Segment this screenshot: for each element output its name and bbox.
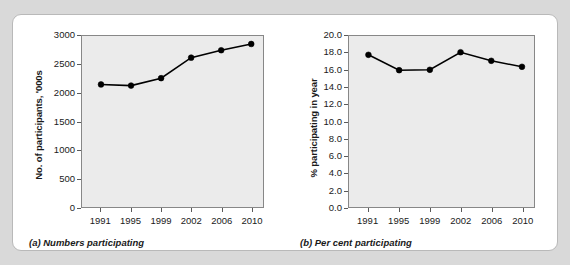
y-tick-label: 2500	[54, 59, 75, 69]
y-tick-mark	[77, 208, 81, 209]
x-tick-label: 1991	[351, 216, 385, 226]
y-tick-label: 3000	[54, 30, 75, 40]
data-point	[366, 52, 372, 58]
y-tick-label: 8.0	[329, 134, 342, 144]
y-tick-label: 16.0	[324, 65, 343, 75]
x-tick-mark	[100, 208, 101, 212]
y-axis-label-a: No. of participants, '000s	[31, 35, 47, 215]
x-tick-label: 2006	[475, 216, 509, 226]
y-tick-label: 6.0	[329, 151, 342, 161]
series-line-a	[82, 36, 263, 207]
data-point	[427, 67, 433, 73]
y-tick-label: 12.0	[324, 99, 343, 109]
x-tick-label: 1991	[83, 216, 117, 226]
y-tick-label: 1500	[54, 117, 75, 127]
data-point	[188, 55, 194, 61]
x-tick-label: 1999	[413, 216, 447, 226]
figure-root: No. of participants, '000s 0500100015002…	[0, 0, 570, 265]
x-tick-mark	[368, 208, 369, 212]
x-tick-mark	[131, 208, 132, 212]
x-tick-mark	[523, 208, 524, 212]
figure-panel: No. of participants, '000s 0500100015002…	[12, 14, 558, 251]
y-tick-label: 14.0	[324, 82, 343, 92]
data-point	[128, 83, 134, 89]
data-point	[218, 47, 224, 53]
data-point	[158, 75, 164, 81]
y-tick-label: 18.0	[324, 47, 343, 57]
y-tick-label: 20.0	[324, 30, 343, 40]
x-tick-label: 2006	[205, 216, 239, 226]
x-tick-label: 1995	[382, 216, 416, 226]
x-tick-label: 1995	[114, 216, 148, 226]
y-axis-label-b: % participating in year	[306, 43, 322, 213]
x-tick-mark	[461, 208, 462, 212]
y-tick-label: 0.0	[329, 203, 342, 213]
x-tick-label: 2010	[235, 216, 269, 226]
data-point	[519, 64, 525, 70]
x-tick-mark	[492, 208, 493, 212]
x-tick-label: 2010	[506, 216, 540, 226]
data-point	[488, 58, 494, 64]
y-tick-label: 10.0	[324, 117, 343, 127]
data-point	[248, 41, 254, 47]
caption-b: (b) Per cent participating	[300, 237, 412, 248]
data-point	[458, 49, 464, 55]
y-tick-label: 500	[59, 174, 75, 184]
chart-panel-a: No. of participants, '000s 0500100015002…	[13, 15, 286, 252]
series-line-b	[349, 36, 534, 207]
x-tick-label: 2002	[444, 216, 478, 226]
data-point	[396, 67, 402, 73]
x-tick-mark	[191, 208, 192, 212]
x-tick-mark	[399, 208, 400, 212]
y-tick-mark	[344, 208, 348, 209]
plot-area-b	[348, 35, 535, 208]
x-tick-label: 1999	[144, 216, 178, 226]
y-tick-label: 2000	[54, 88, 75, 98]
y-tick-label: 4.0	[329, 168, 342, 178]
y-tick-label: 2.0	[329, 186, 342, 196]
plot-area-a	[81, 35, 264, 208]
x-tick-mark	[222, 208, 223, 212]
x-tick-label: 2002	[174, 216, 208, 226]
y-tick-label: 0	[70, 203, 75, 213]
y-tick-label: 1000	[54, 145, 75, 155]
x-tick-mark	[252, 208, 253, 212]
x-tick-mark	[430, 208, 431, 212]
chart-panel-b: % participating in year 0.02.04.06.08.01…	[286, 15, 559, 252]
x-tick-mark	[161, 208, 162, 212]
caption-a: (a) Numbers participating	[29, 237, 144, 248]
data-point	[98, 82, 104, 88]
